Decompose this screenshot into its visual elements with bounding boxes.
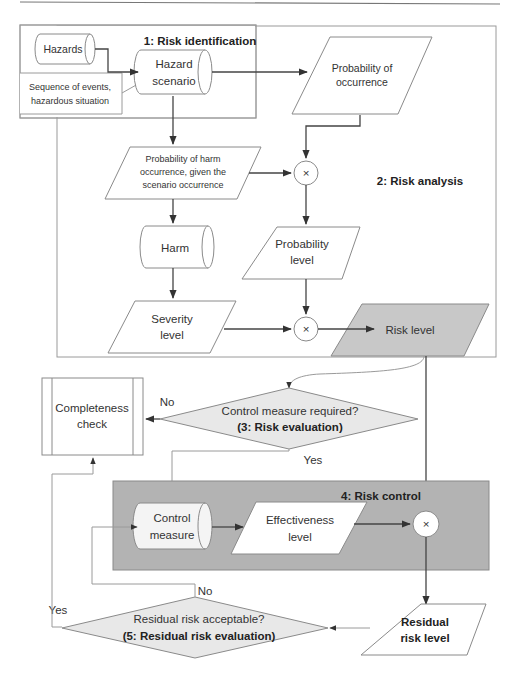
svg-text:scenario: scenario <box>152 75 195 87</box>
probability-of-harm-node[interactable]: Probability of harm occurrence, given th… <box>105 147 261 199</box>
risk-level-node[interactable]: Risk level <box>331 304 489 356</box>
svg-text:Sequence of events,: Sequence of events, <box>29 82 111 92</box>
svg-text:Risk level: Risk level <box>385 324 434 336</box>
svg-text:Hazard: Hazard <box>155 58 192 70</box>
svg-text:Harm: Harm <box>161 242 189 254</box>
svg-text:(5: Residual risk evaluation): (5: Residual risk evaluation) <box>123 630 276 642</box>
multiply-operator-2: × <box>294 317 318 341</box>
control-measure-required-decision[interactable]: Control measure required? (3: Risk evalu… <box>160 388 418 449</box>
header-rule <box>20 2 500 4</box>
svg-text:level: level <box>160 329 184 341</box>
risk-identification-label: 1: Risk identification <box>144 35 256 47</box>
svg-text:Control measure required?: Control measure required? <box>222 405 359 417</box>
svg-text:hazardous situation: hazardous situation <box>31 96 109 106</box>
svg-text:scenario occurrence: scenario occurrence <box>142 180 223 190</box>
svg-text:×: × <box>303 323 310 335</box>
svg-text:check: check <box>77 418 107 430</box>
svg-text:×: × <box>303 167 310 179</box>
svg-text:measure: measure <box>150 529 195 541</box>
multiply-operator-1: × <box>294 161 318 185</box>
completeness-check-node[interactable]: Completeness check <box>42 378 143 455</box>
residual-risk-level-node[interactable]: Residual risk level <box>361 604 486 655</box>
multiply-operator-3: × <box>413 511 439 537</box>
risk-control-label: 4: Risk control <box>341 490 421 502</box>
svg-text:Control: Control <box>153 512 190 524</box>
yes-label-residual: Yes <box>49 604 68 616</box>
risk-analysis-label: 2: Risk analysis <box>377 175 463 187</box>
probability-of-occurrence-node[interactable]: Probability of occurrence <box>292 37 432 114</box>
svg-text:(3: Risk evaluation): (3: Risk evaluation) <box>237 421 343 433</box>
no-label-residual: No <box>198 585 213 597</box>
yes-label-evaluation: Yes <box>304 454 323 466</box>
svg-text:Severity: Severity <box>151 313 193 325</box>
severity-level-node[interactable]: Severity level <box>108 301 236 353</box>
svg-text:level: level <box>288 531 312 543</box>
svg-text:Probability: Probability <box>275 238 329 250</box>
no-label-evaluation: No <box>160 396 175 408</box>
harm-node[interactable]: Harm <box>140 226 214 268</box>
hazards-text: Hazards <box>43 43 82 55</box>
svg-text:Probability of: Probability of <box>332 62 393 74</box>
risk-management-flowchart: 1: Risk identification 1: Risk identific… <box>0 0 514 675</box>
svg-text:×: × <box>423 518 430 530</box>
svg-text:risk level: risk level <box>400 632 449 644</box>
svg-text:Completeness: Completeness <box>55 402 129 414</box>
svg-text:occurrence, given the: occurrence, given the <box>140 167 226 177</box>
control-measure-node[interactable]: Control measure <box>133 503 212 549</box>
residual-risk-acceptable-decision[interactable]: Residual risk acceptable? (5: Residual r… <box>62 597 328 658</box>
svg-text:Probability of harm: Probability of harm <box>145 154 220 164</box>
svg-text:occurrence: occurrence <box>336 76 388 88</box>
probability-level-node[interactable]: Probability level <box>242 227 360 279</box>
hazard-scenario-node[interactable]: Hazard scenario <box>134 50 212 94</box>
svg-text:Residual risk acceptable?: Residual risk acceptable? <box>133 613 264 625</box>
svg-text:Residual: Residual <box>401 616 449 628</box>
svg-text:level: level <box>290 254 314 266</box>
svg-text:Effectiveness: Effectiveness <box>266 514 334 526</box>
hazards-node[interactable]: Hazards <box>35 34 95 64</box>
